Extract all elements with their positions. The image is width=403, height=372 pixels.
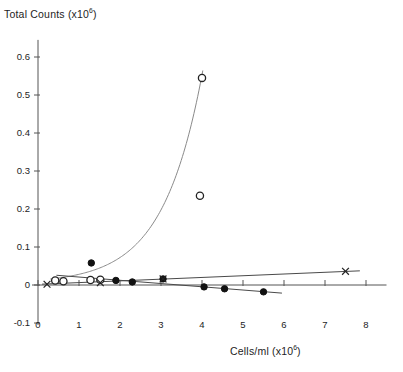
x-tick-label: 5 — [229, 319, 257, 330]
x-tick-label: 7 — [311, 319, 339, 330]
filled-circle-marker — [201, 284, 207, 290]
x-tick-label: 6 — [270, 319, 298, 330]
filled-circle-marker — [260, 289, 266, 295]
open-circle-marker — [87, 276, 94, 283]
filled-circle-marker — [221, 286, 227, 292]
x-tick-label: 3 — [147, 319, 175, 330]
y-tick-label: 0.5 — [0, 89, 30, 100]
filled-circle-marker — [88, 260, 94, 266]
x-tick-label: 8 — [352, 319, 380, 330]
y-tick-label: 0.4 — [0, 127, 30, 138]
chart-container: Total Counts (x106) Cells/ml (x106) -0.1… — [0, 0, 403, 372]
y-tick-label: 0.2 — [0, 203, 30, 214]
y-tick-label: 0.1 — [0, 241, 30, 252]
y-tick-label: 0.3 — [0, 165, 30, 176]
y-tick-label: 0 — [0, 279, 30, 290]
x-tick-label: 2 — [106, 319, 134, 330]
y-tick-label: 0.6 — [0, 51, 30, 62]
open-circle-fit-curve — [50, 70, 203, 279]
open-circle-marker — [60, 278, 67, 285]
open-circle-marker — [196, 192, 203, 199]
open-circle-marker — [198, 74, 205, 81]
filled-circle-marker — [129, 279, 135, 285]
data-markers — [44, 74, 349, 295]
plot-area — [0, 0, 403, 372]
x-tick-label: 4 — [188, 319, 216, 330]
filled-circle-marker — [113, 277, 119, 283]
x-tick-label: 0 — [24, 319, 52, 330]
x-tick-label: 1 — [65, 319, 93, 330]
open-circle-marker — [52, 277, 59, 284]
